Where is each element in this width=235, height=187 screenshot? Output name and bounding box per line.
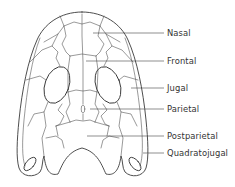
lateral-line-left — [23, 38, 40, 166]
suture-lacrimal-right — [112, 46, 133, 62]
suture-parietal-right — [95, 92, 99, 122]
suture-parietal-left — [66, 92, 70, 122]
skull-diagram: Nasal Frontal Jugal Parietal Postparieta… — [0, 0, 235, 187]
label-parietal: Parietal — [167, 105, 199, 113]
suture-postorbital-right — [101, 104, 109, 126]
suture-squamosal-left — [42, 112, 46, 156]
suture-jugal-left — [28, 102, 48, 126]
suture-squamosal-right — [119, 112, 123, 156]
skull-outline — [17, 12, 148, 176]
lateral-line-right — [125, 38, 142, 166]
skull-drawing — [0, 0, 235, 187]
suture-jugal-right — [117, 102, 137, 126]
label-postparietal: Postparietal — [167, 132, 218, 140]
suture-parietal-postparietal — [70, 120, 95, 122]
label-frontal: Frontal — [167, 57, 196, 65]
suture-tabular-inner-left — [56, 126, 58, 136]
label-nasal: Nasal — [167, 29, 191, 37]
suture-tabular-right — [101, 136, 119, 148]
suture-supratemporal-right — [95, 122, 109, 126]
suture-tabular-left — [46, 136, 64, 148]
label-jugal: Jugal — [167, 84, 188, 92]
label-quadratojugal: Quadratojugal — [167, 149, 228, 157]
suture-nasal-left — [62, 26, 70, 56]
suture-postorbital-left — [56, 104, 64, 126]
suture-supratemporal-left — [56, 122, 70, 126]
suture-tabular-inner-right — [107, 126, 109, 136]
suture-frontal-parietal — [68, 90, 97, 92]
pineal-foramen — [81, 105, 85, 113]
suture-maxilla-left — [26, 76, 46, 80]
suture-prefrontal-left — [52, 34, 60, 66]
suture-nasal-right — [96, 26, 104, 56]
midline-suture — [82, 14, 83, 104]
